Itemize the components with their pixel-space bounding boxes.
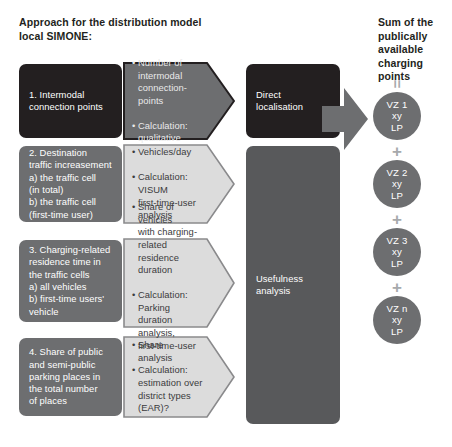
criteria-label: 4. Share of public and semi-public parki… — [19, 346, 103, 407]
criteria-box-charging-related-residence-time[interactable]: 3. Charging-related residence time in th… — [19, 240, 122, 322]
callout-text: • Share • Calculation: estimation over d… — [123, 327, 228, 428]
sum-node-label: VZ 1 xy LP — [386, 99, 407, 134]
callout-intermodal[interactable]: • Number of intermodal connection-points… — [123, 62, 235, 140]
callout-bullet: • Number of intermodal connection-points — [132, 57, 209, 107]
callout-bullet: • Share — [132, 339, 202, 352]
criteria-box-intermodal-connection-points[interactable]: 1. Intermodal connection points — [19, 64, 122, 138]
callout-bullet: • Share of vehicles with charging- relat… — [132, 201, 209, 277]
plus-symbol: + — [386, 279, 408, 296]
left-column-title: Approach for the distribution model loca… — [19, 16, 234, 43]
criteria-label: 1. Intermodal connection points — [19, 89, 103, 114]
outcome-label: Direct localisation — [246, 89, 303, 114]
callout-share-of-vehicles[interactable]: • Share of vehicles with charging- relat… — [123, 238, 235, 328]
sum-node-vz-n[interactable]: VZ n xy LP — [373, 296, 421, 344]
criteria-box-share-of-public-parking-places[interactable]: 4. Share of public and semi-public parki… — [19, 338, 122, 416]
outcome-box-usefulness-analysis[interactable]: Usefulness analysis — [246, 146, 340, 424]
criteria-label: 2. Destination traffic increasement a) t… — [19, 147, 112, 221]
sum-node-vz-3[interactable]: VZ 3 xy LP — [373, 228, 421, 276]
diagram-canvas: Approach for the distribution model loca… — [0, 0, 452, 447]
sum-node-label: VZ 2 xy LP — [386, 167, 407, 202]
callout-bullet: • Vehicles/day — [132, 146, 196, 159]
flow-arrow-icon — [322, 88, 368, 150]
plus-symbol: + — [386, 143, 408, 160]
callout-share[interactable]: • Share • Calculation: estimation over d… — [123, 336, 235, 418]
callout-bullet: • Calculation: estimation over district … — [132, 364, 202, 414]
criteria-box-destination-traffic-increasement[interactable]: 2. Destination traffic increasement a) t… — [19, 146, 122, 222]
sum-node-vz-2[interactable]: VZ 2 xy LP — [373, 160, 421, 208]
outcome-label: Usefulness analysis — [246, 273, 303, 298]
sum-node-label: VZ n xy LP — [386, 303, 407, 338]
sum-node-vz-1[interactable]: VZ 1 xy LP — [373, 92, 421, 140]
plus-symbol: + — [386, 211, 408, 228]
sum-node-label: VZ 3 xy LP — [386, 235, 407, 270]
criteria-label: 3. Charging-related residence time in th… — [19, 244, 110, 318]
